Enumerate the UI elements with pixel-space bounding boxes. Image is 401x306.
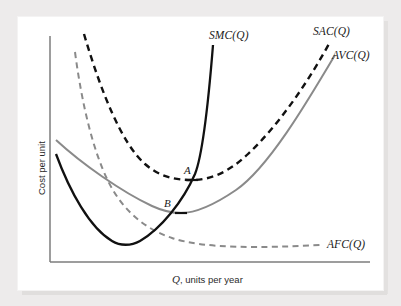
curve-smc xyxy=(56,45,213,245)
x-axis-label-symbol: Q xyxy=(172,273,180,285)
plot-canvas xyxy=(0,0,401,306)
curve-label-avc: AVC(Q) xyxy=(332,49,370,61)
x-axis-label-rest: , units per year xyxy=(180,274,243,285)
y-axis-label: Cost per unit xyxy=(36,141,47,195)
curve-label-smc: SMC(Q) xyxy=(209,29,249,41)
x-axis-label: Q, units per year xyxy=(172,273,243,285)
curve-afc xyxy=(75,52,320,247)
cost-curve-figure: SMC(Q) SAC(Q) AVC(Q) AFC(Q) A B Cost per… xyxy=(0,0,401,306)
point-label-b: B xyxy=(164,197,171,209)
point-label-a: A xyxy=(184,164,191,176)
curve-label-afc: AFC(Q) xyxy=(327,238,365,250)
curve-label-sac: SAC(Q) xyxy=(313,25,350,37)
